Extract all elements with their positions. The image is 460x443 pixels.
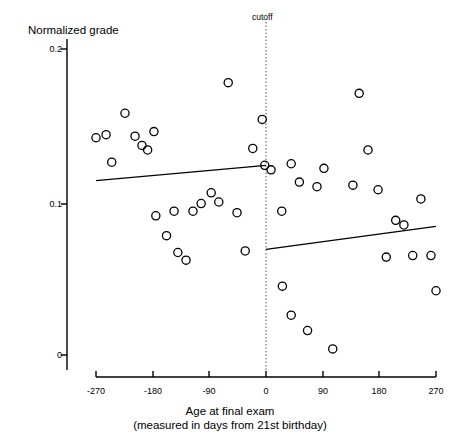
data-point: [329, 345, 337, 353]
data-point: [152, 212, 160, 220]
data-point: [320, 164, 328, 172]
data-point: [108, 158, 116, 166]
data-point: [92, 134, 100, 142]
data-point: [278, 282, 286, 290]
data-point: [207, 189, 215, 197]
data-point: [409, 251, 417, 259]
data-point: [287, 311, 295, 319]
plot-canvas: [0, 0, 460, 443]
y-axis: [61, 39, 67, 370]
data-point: [278, 207, 286, 215]
data-point: [427, 251, 435, 259]
data-point: [144, 146, 152, 154]
scatter-plot: Normalized grade 0.2 0.1 0 -270 -180 -90…: [0, 0, 460, 443]
data-point: [241, 247, 249, 255]
data-point: [432, 287, 440, 295]
data-point: [258, 115, 266, 123]
left-fit: [96, 165, 266, 180]
data-point: [182, 256, 190, 264]
data-point: [349, 181, 357, 189]
data-point: [197, 199, 205, 207]
data-point: [102, 131, 110, 139]
data-point: [400, 221, 408, 229]
data-point: [174, 248, 182, 256]
x-axis: [96, 371, 436, 377]
data-point: [382, 253, 390, 261]
data-point: [355, 89, 363, 97]
data-point: [131, 132, 139, 140]
data-point: [417, 195, 425, 203]
right-fit: [266, 226, 436, 249]
data-point: [313, 183, 321, 191]
data-point: [150, 128, 158, 136]
data-point: [121, 109, 129, 117]
data-point: [374, 186, 382, 194]
data-point: [170, 207, 178, 215]
data-point: [364, 146, 372, 154]
data-point: [233, 209, 241, 217]
data-point: [303, 326, 311, 334]
data-point: [295, 178, 303, 186]
data-point: [189, 207, 197, 215]
data-point: [287, 160, 295, 168]
data-point: [392, 216, 400, 224]
data-point: [267, 166, 275, 174]
data-point: [215, 198, 223, 206]
data-point: [162, 232, 170, 240]
data-point: [138, 141, 146, 149]
data-point: [224, 79, 232, 87]
data-point: [249, 144, 257, 152]
